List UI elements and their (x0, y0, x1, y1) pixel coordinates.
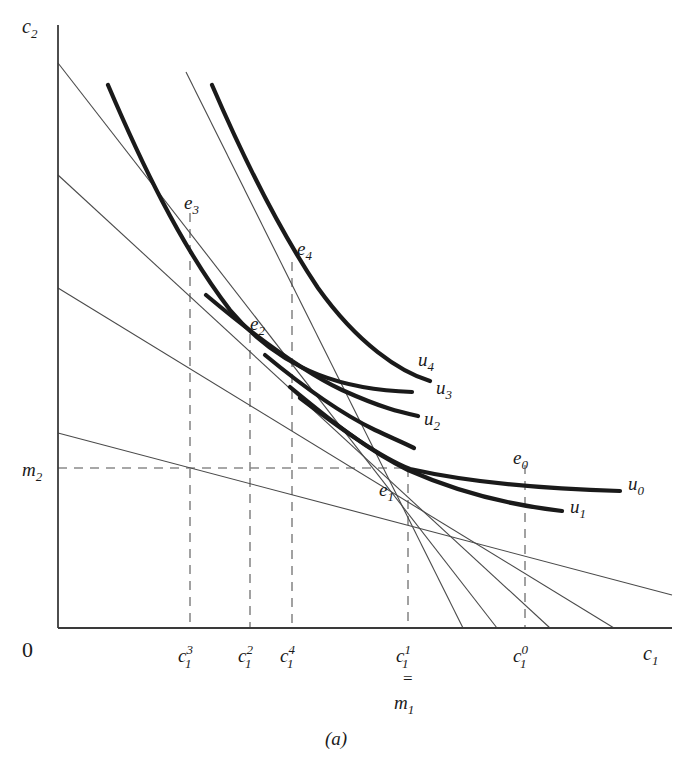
intertemporal-choice-figure: c2 c1 0 m2 c31 c21 c41 c11 c0 (0, 0, 687, 763)
curve-label-u0: u0 (628, 473, 645, 498)
equals-sign-m1: = (403, 669, 413, 688)
equilibrium-label-e0: e0 (513, 447, 528, 472)
x-tick-label-c1-3: c31 (178, 642, 193, 671)
budget-lines (58, 63, 672, 628)
x-tick-label-c1-1: c11 (396, 642, 410, 671)
indifference-curve-u3 (212, 85, 430, 381)
figure-caption: (a) (325, 728, 347, 750)
x-tick-labels: c31 c21 c41 c11 c01 = m1 (178, 642, 528, 717)
x-tick-label-c1-4: c41 (280, 642, 295, 671)
figure-canvas: c2 c1 0 m2 c31 c21 c41 c11 c0 (0, 0, 687, 763)
budget-line-3 (58, 63, 497, 628)
curve-label-u4: u4 (418, 349, 435, 374)
axes (58, 25, 672, 628)
indifference-curve-u0 (300, 398, 620, 491)
budget-line-1 (58, 288, 614, 628)
x-tick-label-c1-2: c21 (238, 642, 253, 671)
dashed-guides (58, 213, 525, 628)
curve-labels: u0 u1 u2 u3 u4 (418, 349, 645, 521)
origin-label: 0 (22, 637, 33, 662)
y-tick-label-m2: m2 (22, 459, 43, 484)
x-tick-label-c1-0: c01 (513, 642, 528, 671)
m1-label: m1 (394, 692, 414, 717)
equilibrium-label-e3: e3 (184, 192, 199, 217)
equilibrium-labels: e0 e1 e2 e3 e4 (184, 192, 528, 504)
axis-labels: c2 c1 0 m2 (22, 15, 658, 668)
curve-label-u1: u1 (570, 496, 586, 521)
y-axis-label: c2 (22, 15, 38, 41)
x-axis-label: c1 (643, 642, 658, 668)
indifference-curves (108, 85, 620, 511)
curve-label-u2: u2 (424, 408, 441, 433)
curve-label-u3: u3 (436, 377, 453, 402)
